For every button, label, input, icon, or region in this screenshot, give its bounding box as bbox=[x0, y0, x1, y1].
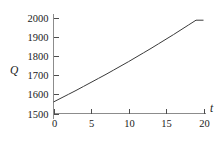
chart-figure: 150016001700180019002000 05101520 Q t bbox=[0, 0, 222, 142]
line-chart: 150016001700180019002000 05101520 Q t bbox=[0, 0, 222, 142]
y-tick-label: 1700 bbox=[28, 70, 49, 81]
x-tick-label: 0 bbox=[52, 118, 57, 129]
y-tick-label: 1800 bbox=[28, 51, 49, 62]
axis-lines bbox=[54, 14, 207, 119]
y-tick-label: 1500 bbox=[28, 109, 49, 120]
x-tick-label: 5 bbox=[89, 118, 94, 129]
x-tick-label: 15 bbox=[161, 118, 172, 129]
y-tick-label: 1600 bbox=[28, 89, 49, 100]
x-axis-ticks bbox=[55, 109, 205, 114]
x-axis-tick-labels: 05101520 bbox=[52, 118, 210, 129]
y-tick-label: 2000 bbox=[28, 13, 49, 24]
x-axis-label: t bbox=[210, 102, 214, 114]
x-tick-label: 20 bbox=[199, 118, 210, 129]
x-tick-label: 10 bbox=[124, 118, 135, 129]
y-tick-label: 1900 bbox=[28, 32, 49, 43]
y-axis-label: Q bbox=[10, 64, 19, 76]
y-axis-tick-labels: 150016001700180019002000 bbox=[28, 13, 49, 120]
data-series-line bbox=[54, 20, 204, 102]
